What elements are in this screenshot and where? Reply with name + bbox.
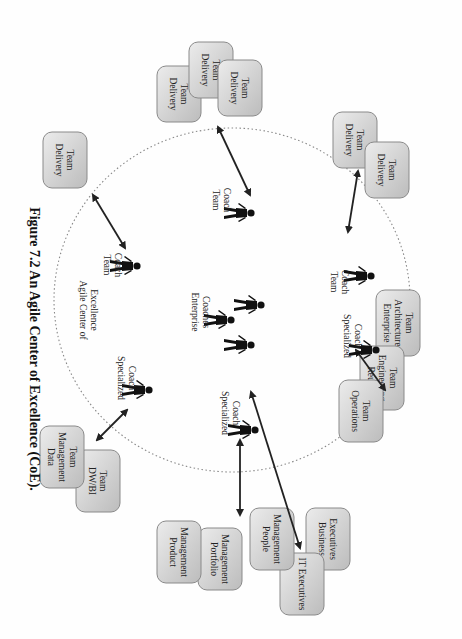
coach-label-line: Specialized [116,356,126,400]
team-box-shape [157,521,201,583]
coe-center-label: Agile Center ofExcellence [78,280,99,340]
team-box-label-line: Executives [328,518,338,560]
coe-center-label-line: Agile Center of [78,280,88,340]
coach-label-line: Coach [231,401,241,426]
team-box: PeopleManagement [250,508,294,570]
team-box-label-line: Team [355,130,365,152]
team-box-label-line: Team [65,150,75,172]
coach-label-line: Team [102,255,112,277]
team-box: PortfolioManagement [198,528,242,590]
coach-label-line: Specialized [220,391,230,435]
coach-label: TeamCoach [329,270,350,295]
coach-label-line: Coach [127,366,137,391]
team-box-label-line: People [261,526,271,552]
relationship-arrow [348,171,358,232]
team-box-label-line: Enterprise [382,303,392,342]
coach-label-line: Coach [353,324,363,349]
enterprise-coach-figure-icon [224,335,255,354]
team-box-label-line: DW/BI [87,467,97,495]
team-box-label: BusinessExecutives [317,518,338,560]
team-box-shape [365,142,409,198]
figure: DeliveryTeamDeliveryTeamDeliveryTeamDeli… [0,0,462,639]
team-box: DeliveryTeam [43,132,87,188]
team-box-label-line: Team [179,84,189,106]
coach-label-line: Coach [222,188,232,213]
team-box-label-line: Delivery [168,77,178,110]
team-box-shape [198,528,242,590]
team-box-label-line: IT Executives [297,558,307,611]
team-box-label-line: Team [98,471,108,493]
team-box-shape [250,508,294,570]
coach-label-line: Coach [340,270,350,295]
coach-label-line: Coach [113,253,123,278]
coe-center-label-line: Excellence [89,289,99,331]
team-box-label-line: Team [240,78,250,100]
team-box: OperationsTeam [339,380,383,442]
team-box-label-line: Management [179,527,189,577]
team-box-label-line: Delivery [200,53,210,86]
team-box-shape [218,60,262,116]
coe-diagram: DeliveryTeamDeliveryTeamDeliveryTeamDeli… [0,0,462,639]
team-box: DataManagementTeam [40,426,84,488]
coach-label-line: Team [211,190,221,212]
enterprise-coach-figure-icon [234,295,265,314]
team-box-shape [339,380,383,442]
team-box-label-line: Portfolio [209,542,219,576]
team-box-label-line: Architecture [393,299,403,346]
team-box-label: IT Executives [297,558,307,611]
team-box-shape [43,132,87,188]
team-box-label-line: Team [68,447,78,469]
coach-label: TeamCoach [102,253,123,278]
relationship-arrow [93,195,125,248]
team-box: DeliveryTeam [218,60,262,116]
team-box-label-line: Team [361,401,371,423]
team-box-label-line: Management [272,514,282,564]
team-box-label-line: Management [57,432,67,482]
team-box-label-line: Data [46,448,56,467]
team-box: DeliveryTeam [365,142,409,198]
team-box-label-line: Team [387,160,397,182]
coach-label-line: Specialized [342,314,352,358]
team-box: ProductManagement [157,521,201,583]
team-box-label-line: Management [220,534,230,584]
team-box-label-line: Product [168,537,178,567]
team-box-label-line: Delivery [54,143,64,176]
relationship-arrow [218,127,250,195]
team-box-label-line: Delivery [376,153,386,186]
figure-caption: Figure 7.2 An Agile Center of Excellence… [26,207,42,491]
coach-label-line: Team [329,272,339,294]
team-box-label-line: Delivery [229,71,239,104]
enterprise-coaches-label: EnterpriseCoaches [190,292,211,331]
enterprise-coaches-label-line: Enterprise [190,292,200,331]
team-box-label: DW/BITeam [87,467,108,495]
coach-label: TeamCoach [211,188,232,213]
team-box-label-line: Business [317,522,327,556]
team-box-label-line: Team [404,313,414,335]
team-box-label-line: Delivery [344,123,354,156]
team-box-label-line: Team [388,368,398,390]
enterprise-coaches-label-line: Coaches [201,296,211,328]
team-box-label-line: Operations [350,390,360,432]
